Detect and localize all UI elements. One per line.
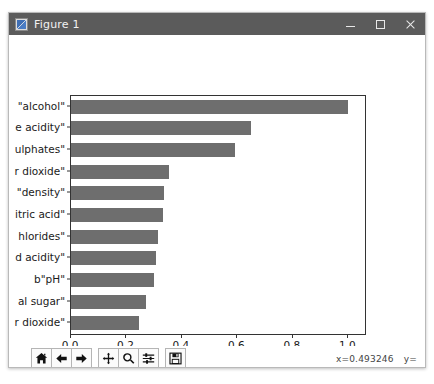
bar: [71, 121, 251, 135]
matplotlib-figure-icon: [15, 18, 28, 31]
figure-window: Figure 1 "alcohol"e acidity"ulphates"r d…: [8, 12, 426, 368]
window-title: Figure 1: [34, 18, 80, 31]
bar: [71, 316, 139, 330]
figure-canvas[interactable]: "alcohol"e acidity"ulphates"r dioxide""d…: [9, 35, 425, 346]
y-axis-tick-label: itric acid": [15, 208, 65, 220]
y-axis-tick-label: b"pH": [34, 273, 65, 285]
bar: [71, 251, 156, 265]
y-axis-tick-label: r dioxide": [15, 165, 65, 177]
cursor-status: x=0.493246y=: [336, 354, 417, 364]
bar-series: [71, 96, 365, 334]
back-button[interactable]: [51, 348, 72, 368]
save-button[interactable]: [165, 348, 186, 368]
cursor-y-value: y=: [404, 354, 417, 364]
cursor-x-value: x=0.493246: [336, 354, 394, 364]
bar: [71, 230, 158, 244]
zoom-button[interactable]: [118, 348, 139, 368]
y-axis-tick-label: r dioxide": [15, 316, 65, 328]
home-button[interactable]: [31, 348, 52, 368]
y-axis-tick-label: "alcohol": [18, 100, 65, 112]
window-titlebar: Figure 1: [9, 13, 425, 35]
plot-axes: [70, 95, 366, 335]
configure-subplots-button[interactable]: [138, 348, 159, 368]
y-axis-tick-label: al sugar": [18, 295, 65, 307]
x-axis-tick-mark: [125, 334, 126, 338]
y-axis-labels: "alcohol"e acidity"ulphates"r dioxide""d…: [9, 95, 70, 333]
x-axis-tick-mark: [70, 334, 71, 338]
x-axis-tick-mark: [236, 334, 237, 338]
y-axis-tick-label: ulphates": [15, 143, 65, 155]
y-axis-tick-label: "density": [17, 186, 65, 198]
forward-button[interactable]: [71, 348, 92, 368]
bar: [71, 186, 164, 200]
y-axis-tick-label: hlorides": [18, 230, 65, 242]
close-icon[interactable]: [395, 13, 425, 35]
x-axis-tick-mark: [181, 334, 182, 338]
minimize-icon[interactable]: [335, 13, 365, 35]
x-axis-tick-mark: [347, 334, 348, 338]
pan-button[interactable]: [98, 348, 119, 368]
x-axis-tick-mark: [292, 334, 293, 338]
bar: [71, 143, 235, 157]
nav-group-history: [31, 348, 91, 368]
bar: [71, 273, 154, 287]
navigation-toolbar: x=0.493246y=: [9, 346, 425, 368]
y-axis-tick-label: d acidity": [15, 251, 65, 263]
window-controls: [335, 13, 425, 35]
y-axis-tick-label: e acidity": [15, 121, 65, 133]
bar: [71, 100, 348, 114]
bar: [71, 208, 163, 222]
maximize-icon[interactable]: [365, 13, 395, 35]
nav-group-tools: [98, 348, 158, 368]
bar: [71, 295, 146, 309]
bar: [71, 165, 169, 179]
nav-group-save: [165, 348, 185, 368]
